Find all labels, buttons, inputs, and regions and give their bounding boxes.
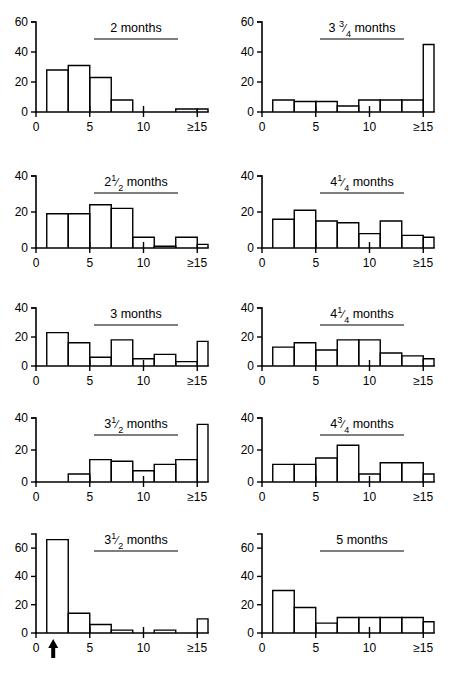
x-tick: 0 <box>259 633 266 655</box>
y-tick-label: 20 <box>241 205 255 219</box>
x-tick-label: 10 <box>363 374 377 388</box>
histogram-bar <box>337 106 359 112</box>
x-tick: 10 <box>137 366 151 388</box>
panel-title: 31⁄2 months <box>104 531 167 551</box>
y-tick-label: 20 <box>15 443 29 457</box>
x-tick: 10 <box>363 366 377 388</box>
bar-group <box>47 333 208 366</box>
x-tick-label: 5 <box>86 490 93 504</box>
histogram-bar <box>273 100 295 112</box>
histogram-bar <box>423 237 434 248</box>
x-tick: ≥15 <box>413 633 433 655</box>
axis-group <box>36 22 208 112</box>
x-tick-label: ≥15 <box>413 120 433 134</box>
y-tick-label: 40 <box>15 569 29 583</box>
x-tick: 0 <box>259 366 266 388</box>
histogram-panel: 02040600510≥155 months <box>226 516 452 675</box>
histogram-bar <box>294 102 316 113</box>
svg-text:43⁄4 months: 43⁄4 months <box>330 415 393 435</box>
y-tick-label: 0 <box>247 626 254 640</box>
svg-text:41⁄4 months: 41⁄4 months <box>330 173 393 193</box>
histogram-bar <box>316 221 338 248</box>
bar-group <box>273 210 434 248</box>
x-tick: 0 <box>33 248 40 270</box>
bar-group <box>273 591 434 633</box>
y-tick-label: 0 <box>21 626 28 640</box>
x-tick: 0 <box>33 482 40 504</box>
bar-group <box>273 445 434 482</box>
histogram-bar <box>316 102 338 113</box>
x-tick: ≥15 <box>187 482 207 504</box>
svg-text:2 months: 2 months <box>110 21 161 35</box>
x-tick-label: ≥15 <box>187 256 207 270</box>
y-tick-label: 20 <box>241 330 255 344</box>
histogram-bar <box>402 100 424 112</box>
x-tick-label: 10 <box>363 120 377 134</box>
x-tick: ≥15 <box>413 366 433 388</box>
x-tick-label: ≥15 <box>187 490 207 504</box>
y-tick-label: 60 <box>241 15 255 29</box>
y-tick: 0 <box>247 241 262 255</box>
histogram-bar <box>68 214 90 248</box>
y-tick: 0 <box>21 359 36 373</box>
svg-text:3 months: 3 months <box>110 307 161 321</box>
histogram-bar <box>176 237 198 248</box>
histogram-bar <box>402 356 424 366</box>
x-tick-label: ≥15 <box>413 374 433 388</box>
histogram-bar <box>111 340 133 366</box>
y-tick: 40 <box>241 45 262 59</box>
histogram-panel: 02040600510≥153 3⁄4 months <box>226 4 452 154</box>
x-tick: 5 <box>86 482 93 504</box>
histogram-bar <box>423 622 434 633</box>
y-tick: 0 <box>247 359 262 373</box>
x-tick-label: 0 <box>259 374 266 388</box>
x-tick: 10 <box>363 633 377 655</box>
bar-group <box>47 540 208 633</box>
y-tick-label: 40 <box>241 569 255 583</box>
bar-group <box>68 424 208 482</box>
svg-text:3 3⁄4 months: 3 3⁄4 months <box>329 19 396 39</box>
x-tick-label: 10 <box>363 641 377 655</box>
svg-text:31⁄2 months: 31⁄2 months <box>104 415 167 435</box>
x-tick: ≥15 <box>187 366 207 388</box>
x-tick: 5 <box>312 633 319 655</box>
x-tick-label: ≥15 <box>413 256 433 270</box>
y-tick: 60 <box>15 541 36 555</box>
y-tick: 40 <box>15 45 36 59</box>
y-tick: 40 <box>241 569 262 583</box>
y-tick-label: 0 <box>21 241 28 255</box>
x-tick-label: 10 <box>137 641 151 655</box>
x-tick-label: 10 <box>363 490 377 504</box>
y-tick-label: 20 <box>241 598 255 612</box>
x-tick-label: 10 <box>137 490 151 504</box>
y-tick: 40 <box>15 569 36 583</box>
bar-group <box>273 45 434 113</box>
histogram-figure: 02040600510≥152 months02040600510≥153 3⁄… <box>0 0 452 675</box>
x-tick: ≥15 <box>413 482 433 504</box>
y-tick-label: 0 <box>21 359 28 373</box>
x-tick: 10 <box>137 633 151 655</box>
y-tick-label: 20 <box>15 598 29 612</box>
x-tick-label: 0 <box>259 490 266 504</box>
y-tick-label: 0 <box>247 475 254 489</box>
x-tick: 5 <box>312 248 319 270</box>
panel-title: 41⁄4 months <box>330 305 393 325</box>
x-tick-label: 0 <box>33 641 40 655</box>
x-tick: ≥15 <box>413 248 433 270</box>
panel-title: 3 months <box>110 307 161 321</box>
histogram-bar <box>197 424 208 482</box>
histogram-panel: 020400510≥1541⁄4 months <box>226 158 452 290</box>
y-tick-label: 40 <box>241 169 255 183</box>
y-tick-label: 40 <box>241 301 255 315</box>
y-tick-label: 40 <box>15 301 29 315</box>
histogram-bar <box>47 214 69 248</box>
x-tick: 5 <box>86 112 93 134</box>
histogram-bar <box>294 210 316 248</box>
annotation-arrow-icon <box>48 639 58 658</box>
histogram-bar <box>90 460 112 482</box>
bar-group <box>273 340 434 366</box>
histogram-bar <box>154 354 176 366</box>
histogram-bar <box>337 223 359 248</box>
panel-title: 21⁄2 months <box>104 173 167 193</box>
histogram-bar <box>273 347 295 366</box>
